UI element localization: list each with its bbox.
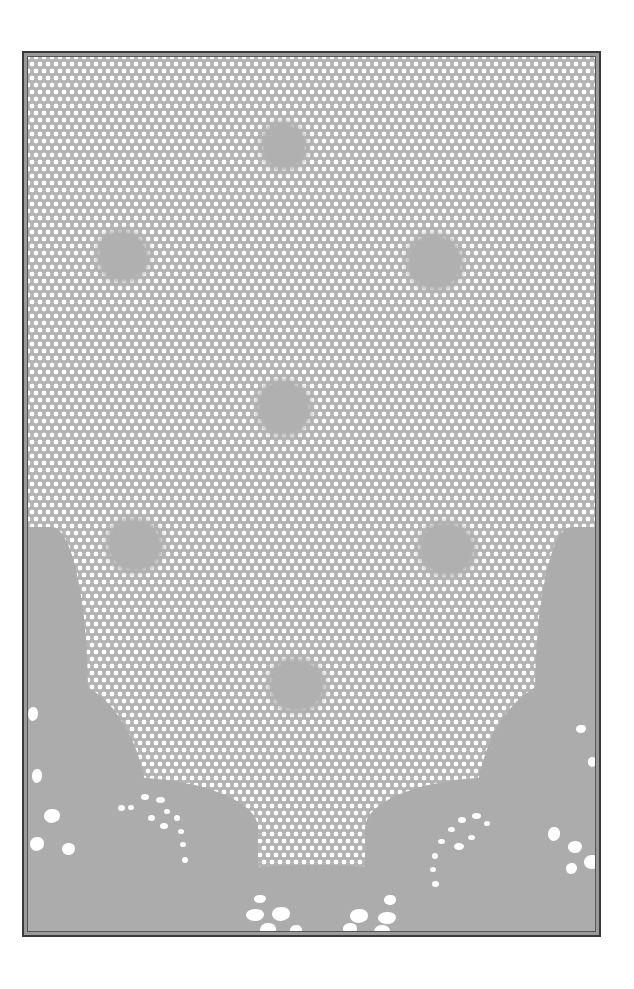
lace-cutout (584, 855, 596, 869)
lace-cutout (304, 931, 324, 932)
lace-hole (432, 853, 438, 859)
lace-motif (100, 233, 146, 279)
lace-hole (484, 821, 490, 826)
lace-motif (260, 383, 308, 433)
lace-motif (110, 521, 160, 569)
lace-hole (160, 823, 168, 829)
lace-hole (178, 829, 184, 834)
lace-cutout (374, 925, 390, 932)
lace-motif (410, 237, 460, 287)
lace-hole (468, 835, 475, 840)
lace-motif (422, 525, 472, 573)
lace-hole (438, 839, 445, 844)
lace-cutout (343, 923, 357, 932)
photo-frame (22, 51, 601, 937)
lace-hole (448, 827, 455, 832)
lace-hole (180, 842, 186, 847)
lace-motif (264, 125, 304, 167)
bleed-through-text (34, 14, 334, 24)
lace-hole (141, 794, 149, 800)
lace-hole (164, 809, 170, 814)
lace-cutout (260, 923, 276, 932)
lace-hole (118, 805, 125, 811)
lace-photo (27, 56, 596, 932)
lace-hole (156, 797, 165, 803)
lace-hole (432, 881, 439, 887)
lace-solid-band-bottom (178, 865, 448, 932)
lace-hole (174, 815, 180, 821)
lace-hole (128, 805, 134, 810)
lace-hole (182, 857, 188, 863)
lace-cutout (290, 925, 302, 932)
lace-hole (472, 813, 481, 819)
lace-hole (458, 817, 466, 823)
lace-hole (454, 843, 464, 850)
lace-motif (272, 661, 322, 709)
lace-hole (430, 867, 436, 872)
lace-hole (148, 815, 155, 821)
